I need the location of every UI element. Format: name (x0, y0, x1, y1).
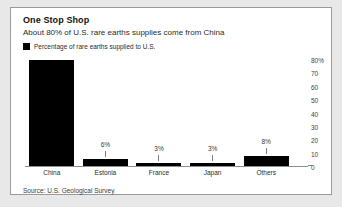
bar-value-leader-tick (158, 155, 159, 161)
bar-value-label: 8% (261, 138, 270, 145)
bar-slot[interactable]: 3% (132, 60, 186, 167)
y-axis-tick-label: 40 (311, 110, 318, 117)
x-axis-label: Others (239, 169, 293, 176)
y-axis-tick-label: 20 (311, 137, 318, 144)
bar-value-leader-tick (212, 155, 213, 161)
chart-header: One Stop Shop About 80% of U.S. rare ear… (23, 15, 323, 38)
bar-slot[interactable]: 6% (79, 60, 133, 167)
x-axis-label: China (25, 169, 79, 176)
chart-title: One Stop Shop (23, 15, 323, 26)
y-axis-tick-label: 60 (311, 83, 318, 90)
y-axis-tick-label: 30 (311, 123, 318, 130)
bar-value-label: 3% (208, 145, 217, 152)
bar-value-leader-tick (266, 148, 267, 154)
y-axis-tick-label: 70 (311, 70, 318, 77)
x-axis-label: France (132, 169, 186, 176)
bar-group: 6%3%3%8% (25, 60, 293, 167)
x-axis-label: Estonia (79, 169, 133, 176)
legend-swatch-icon (23, 43, 30, 50)
plot-area: 6%3%3%8% (25, 60, 293, 167)
y-axis-tick-label: 50 (311, 97, 318, 104)
x-axis-label: Japan (186, 169, 240, 176)
chart-card: One Stop Shop About 80% of U.S. rare ear… (10, 7, 332, 195)
chart-legend: Percentage of rare earths supplied to U.… (23, 43, 155, 50)
y-axis-tick-label: 10 (311, 150, 318, 157)
bar-value-leader-tick (105, 151, 106, 157)
bar-value-label: 6% (101, 141, 110, 148)
bar-slot[interactable] (25, 60, 79, 167)
y-axis-tick-label: 80% (311, 57, 324, 64)
source-note: Source: U.S. Geological Survey (23, 187, 114, 194)
y-axis-tick-label: 0 (311, 164, 315, 171)
bar-value-label: 3% (154, 145, 163, 152)
chart-subtitle: About 80% of U.S. rare earths supplies c… (23, 27, 323, 38)
y-axis-labels: 80%706050403020100 (311, 60, 339, 167)
x-axis-labels: ChinaEstoniaFranceJapanOthers (25, 169, 293, 176)
legend-label: Percentage of rare earths supplied to U.… (34, 43, 155, 50)
x-axis-line (25, 166, 308, 167)
bar[interactable] (29, 60, 74, 167)
bar-slot[interactable]: 8% (239, 60, 293, 167)
bar-slot[interactable]: 3% (186, 60, 240, 167)
